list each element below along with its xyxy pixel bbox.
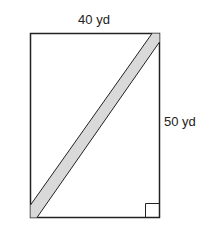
diagram-canvas: 40 yd 50 yd — [0, 0, 210, 243]
height-label: 50 yd — [164, 114, 196, 129]
width-label: 40 yd — [78, 12, 110, 27]
